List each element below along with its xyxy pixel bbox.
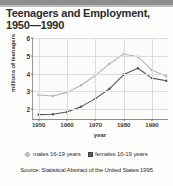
gridline-vertical <box>95 38 96 119</box>
y-tick-mark <box>31 73 33 74</box>
data-point-marker <box>80 105 82 107</box>
x-tick-mark <box>123 119 124 121</box>
gridline-horizontal <box>33 56 168 57</box>
x-tick-mark <box>152 119 153 121</box>
legend-marker-circle-icon <box>25 152 30 157</box>
data-point-marker <box>52 95 54 97</box>
plot-area-wrapper: millions of teenagers 234561950196019701… <box>0 34 173 186</box>
data-point-marker <box>165 80 167 82</box>
chart-legend: males 16-19 yearsfemales 16-19 years <box>0 151 173 157</box>
y-axis-title: millions of teenagers <box>10 20 16 106</box>
chart-title-line-2: 1950—1990 <box>6 20 170 32</box>
data-point-marker <box>80 84 82 86</box>
data-point-marker <box>165 75 167 77</box>
gridline-horizontal <box>33 38 168 39</box>
chart-figure: Teenagers and Employment, 1950—1990 mill… <box>0 0 173 186</box>
legend-label: males 16-19 years <box>33 151 81 157</box>
y-tick-label: 4 <box>26 70 30 77</box>
x-tick-label: 1950 <box>32 122 45 128</box>
data-point-marker <box>108 88 110 90</box>
y-tick-label: 2 <box>26 106 30 113</box>
legend-item: females 16-19 years <box>88 151 148 157</box>
x-tick-label: 1970 <box>89 122 102 128</box>
x-tick-label: 1960 <box>60 122 73 128</box>
y-tick-mark <box>31 55 33 56</box>
data-point-marker <box>108 63 110 65</box>
chart-title: Teenagers and Employment, 1950—1990 <box>6 8 170 31</box>
legend-marker-square-icon <box>88 152 93 157</box>
x-axis-title: year <box>32 132 168 138</box>
gridline-vertical <box>124 38 125 119</box>
x-tick-mark <box>67 119 68 121</box>
data-point-marker <box>137 67 139 69</box>
x-tick-mark <box>38 119 39 121</box>
gridline-vertical <box>39 38 40 119</box>
gridline-vertical <box>67 38 68 119</box>
x-tick-label: 1990 <box>145 122 158 128</box>
plot-area: 2345619501960197019801990 <box>32 38 168 120</box>
series-layer <box>33 38 169 120</box>
legend-item: males 16-19 years <box>25 151 80 157</box>
gridline-horizontal <box>33 91 168 92</box>
x-tick-label: 1980 <box>117 122 130 128</box>
gridline-horizontal <box>33 74 168 75</box>
y-tick-mark <box>31 109 33 110</box>
data-point-marker <box>52 113 54 115</box>
source-note: Source: Statistical Abstract of the Unit… <box>0 167 173 173</box>
legend-label: females 16-19 years <box>95 151 147 157</box>
y-tick-label: 5 <box>26 52 30 59</box>
gridline-horizontal <box>33 109 168 110</box>
y-tick-mark <box>31 38 33 39</box>
y-tick-label: 6 <box>26 35 30 42</box>
y-tick-label: 3 <box>26 88 30 95</box>
x-tick-mark <box>95 119 96 121</box>
y-tick-mark <box>31 91 33 92</box>
gridline-vertical <box>152 38 153 119</box>
chart-title-line-1: Teenagers and Employment, <box>6 8 170 20</box>
